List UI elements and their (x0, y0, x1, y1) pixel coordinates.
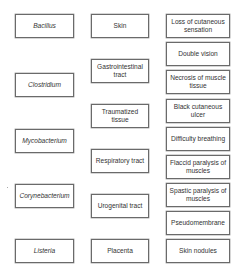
symptom-box: Flaccid paralysis of muscles (166, 155, 230, 179)
entry-site-box: Urogenital tract (91, 194, 149, 218)
entry-site-box: Gastrointestinal tract (91, 59, 149, 83)
symptom-box: Loss of cutaneous sensation (166, 14, 230, 38)
symptom-box: Double vision (166, 42, 230, 66)
symptom-box: Black cutaneous ulcer (166, 99, 230, 123)
symptom-box: Skin nodules (166, 239, 230, 263)
symptom-box: Spastic paralysis of muscles (166, 183, 230, 207)
entry-site-box: Skin (91, 14, 149, 38)
entry-site-box: Placenta (91, 239, 149, 263)
organism-box: Clostridium (15, 73, 74, 97)
stray-mark (7, 187, 8, 188)
organism-box: Bacillus (15, 14, 74, 38)
symptom-box: Difficulty breathing (166, 127, 230, 151)
symptom-box: Necrosis of muscle tissue (166, 70, 230, 94)
organism-box: Listeria (15, 239, 74, 263)
organism-box: Corynebacterium (15, 184, 74, 208)
organism-box: Mycobacterium (15, 129, 74, 153)
entry-site-box: Respiratory tract (91, 149, 149, 173)
symptom-box: Pseudomembrane (166, 211, 230, 235)
entry-site-box: Traumatized tissue (91, 104, 149, 128)
